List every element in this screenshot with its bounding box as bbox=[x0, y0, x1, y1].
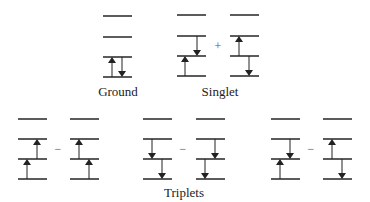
energy-level-diagram bbox=[0, 0, 370, 202]
minus-operator-triplet1: − bbox=[55, 142, 62, 157]
minus-operator-triplet2: − bbox=[180, 142, 187, 157]
singlet-label: Singlet bbox=[202, 84, 239, 100]
level-group-triplet2-a bbox=[143, 119, 172, 179]
level-group-triplet1-b bbox=[70, 119, 99, 179]
level-group-triplet3-a bbox=[271, 119, 300, 179]
level-group-triplet2-b bbox=[196, 119, 225, 179]
level-group-triplet1-a bbox=[18, 119, 47, 179]
minus-operator-triplet3: − bbox=[308, 142, 315, 157]
level-group-singlet-a bbox=[177, 15, 206, 76]
level-group-triplet3-b bbox=[323, 119, 352, 179]
plus-operator-singlet: + bbox=[215, 39, 222, 54]
triplets-label: Triplets bbox=[164, 185, 204, 201]
level-group-singlet-b bbox=[230, 15, 259, 76]
level-group-ground bbox=[103, 16, 132, 77]
ground-label: Ground bbox=[98, 84, 138, 100]
